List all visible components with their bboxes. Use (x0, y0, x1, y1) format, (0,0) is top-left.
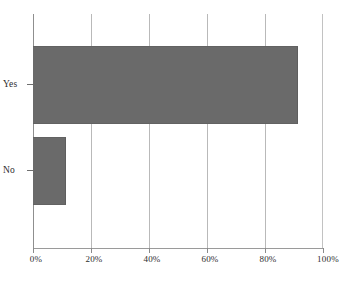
bar-no (33, 137, 66, 205)
gridline-100-percent (322, 14, 323, 248)
x-axis-label-80: 80% (259, 254, 276, 265)
x-axis-label-40: 40% (143, 254, 160, 265)
x-axis-label-100: 100% (317, 254, 339, 265)
x-axis-line (33, 248, 324, 249)
bar-chart: Yes No 0% 20% 40% 60% 80% 100% (0, 0, 347, 283)
x-tick-60 (207, 248, 208, 253)
y-axis-label-no: No (0, 165, 29, 175)
x-axis-label-0: 0% (30, 254, 42, 265)
x-tick-80 (265, 248, 266, 253)
plot-area (33, 14, 323, 248)
bar-yes (33, 46, 298, 124)
x-tick-20 (91, 248, 92, 253)
x-tick-40 (149, 248, 150, 253)
y-axis-label-no-wrap: No (0, 165, 25, 175)
x-axis-label-20: 20% (85, 254, 102, 265)
y-axis-label-yes-wrap: Yes (0, 79, 25, 89)
x-tick-0 (33, 248, 34, 253)
x-tick-100 (323, 248, 324, 253)
x-axis-label-60: 60% (201, 254, 218, 265)
y-axis-label-yes: Yes (0, 79, 29, 89)
